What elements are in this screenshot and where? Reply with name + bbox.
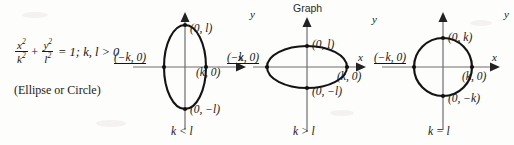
vertex-right-label: (k, 0) — [337, 70, 361, 82]
numerator-y: y2 — [41, 38, 54, 51]
y-axis-arrow — [439, 12, 448, 22]
y-axis-label: y — [504, 8, 509, 20]
k-exponent: 2 — [22, 51, 26, 60]
graph-title: Graph — [293, 2, 322, 14]
vertex-left-label: (−k, 0) — [227, 51, 259, 63]
vertex-top-label: (0, l) — [190, 22, 212, 34]
denominator-k: k2 — [15, 51, 28, 65]
panel-circle: y x (0, k) (k, 0) (0, −k) (−k, 0) k = l — [380, 0, 514, 145]
condition-label-k-eq-l: k = l — [428, 125, 450, 137]
plus-sign: + — [31, 46, 38, 58]
denominator-l: l2 — [42, 51, 53, 65]
vertex-left-point — [162, 65, 166, 69]
vertex-right-point — [345, 65, 349, 69]
vertex-bottom-point — [183, 107, 187, 111]
scan-artifact — [96, 120, 126, 127]
vertex-left-point — [412, 65, 416, 69]
x-axis-label: x — [358, 51, 363, 63]
y-axis-arrow — [181, 12, 190, 22]
figure-canvas: x2 k2 + y2 l2 = 1; k, l > 0 (Ellipse or … — [0, 0, 514, 145]
vertex-bottom-point — [441, 94, 445, 98]
vertex-bottom-point — [305, 86, 309, 90]
vertex-right-label: (k, 0) — [462, 70, 486, 82]
vertex-left-label: (−k, 0) — [374, 51, 406, 63]
vertex-right-label: (k, 0) — [196, 66, 220, 78]
vertex-bottom-label: (0, −l) — [312, 85, 342, 97]
vertex-top-label: (0, k) — [448, 31, 472, 43]
panel-wide-ellipse: Graph y x (0, l) (k, 0) (0, −l) (−k, 0) … — [253, 0, 381, 145]
x-axis-arrow — [490, 63, 500, 72]
y-axis-label: y — [372, 13, 377, 25]
vertex-top-point — [441, 36, 445, 40]
vertex-bottom-label: (0, −k) — [448, 92, 480, 104]
scan-artifact — [22, 12, 48, 18]
condition-label-k-lt-l: k < l — [171, 125, 193, 137]
vertex-top-point — [305, 44, 309, 48]
vertex-top-label: (0, l) — [312, 38, 334, 50]
equation-caption: (Ellipse or Circle) — [14, 83, 101, 98]
y-exponent: 2 — [48, 37, 52, 46]
condition-label-k-gt-l: k > l — [293, 125, 315, 137]
vertex-left-label: (−k, 0) — [114, 51, 146, 63]
fraction-x-over-k: x2 k2 — [15, 38, 28, 66]
y-axis-arrow — [303, 17, 312, 27]
x-exponent: 2 — [22, 37, 26, 46]
vertex-right-point — [470, 65, 474, 69]
vertex-top-point — [183, 23, 187, 27]
equation-tail: = 1; k, l > 0 — [58, 46, 119, 59]
numerator-x: x2 — [15, 38, 28, 51]
wide-ellipse-plot — [253, 0, 381, 145]
x-axis-label: x — [492, 51, 497, 63]
l-exponent: 2 — [47, 51, 51, 60]
vertex-bottom-label: (0, −l) — [190, 103, 220, 115]
vertex-left-point — [265, 65, 269, 69]
x-axis-arrow — [236, 63, 246, 72]
panel-tall-ellipse: y x (0, l) (k, 0) (0, −l) (−k, 0) k < l — [133, 0, 261, 145]
circle-plot — [380, 0, 514, 145]
fraction-y-over-l: y2 l2 — [41, 38, 54, 66]
